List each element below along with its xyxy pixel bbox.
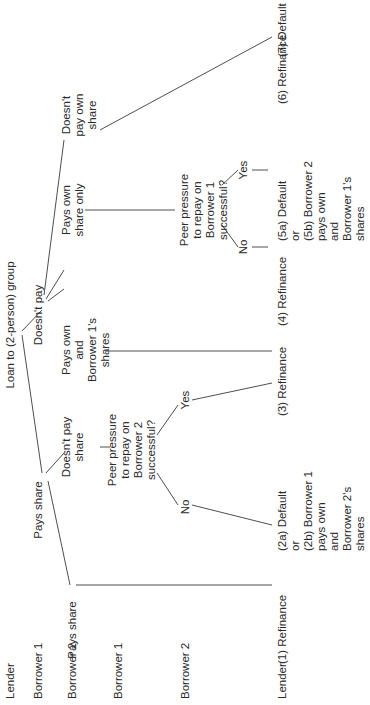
outcome-o2-line: (2b) Borrower 1: [302, 471, 314, 551]
outcome-o5-line: Borrower 1's: [341, 177, 353, 241]
row-label-line: Lender: [276, 663, 288, 699]
node-root-line: Loan to (2-person) group: [4, 261, 16, 388]
node-peer_b2-line: Borrower 2: [132, 422, 144, 478]
tree-canvas: LenderBorrower 1Borrower 2Borrower 1Borr…: [0, 0, 370, 705]
row-label-line: Borrower 1: [112, 643, 124, 699]
row-label: Lender: [4, 663, 16, 699]
tree-edge: [100, 37, 272, 130]
node-peer_b2-line: successful?: [145, 420, 157, 480]
node-peer_b1-line: to repay on: [191, 181, 203, 239]
node-b2_both-line: Pays own: [60, 325, 72, 375]
row-label: Borrower 1: [112, 643, 124, 699]
node-b2_own_only-line: Pays own: [60, 185, 72, 235]
tree-edge: [192, 383, 272, 400]
row-label-line: Borrower 2: [179, 643, 191, 699]
node-b2_not_a-line: share: [73, 433, 85, 462]
node-b2_not_a: Doesn't payshare: [60, 417, 85, 478]
outcome-o5-line: or: [289, 231, 301, 241]
node-no_b1-line: No: [237, 240, 249, 255]
outcome-o1-line: (1) Refinance: [276, 595, 288, 664]
decision-nodes: Loan to (2-person) groupPays shareDoesn'…: [4, 94, 249, 659]
node-no_b2-line: No: [179, 500, 191, 515]
node-peer_b1-line: Peer pressure: [178, 174, 190, 246]
node-yes_b2: Yes: [179, 390, 191, 409]
outcome-o5: (5a) Defaultor(5b) Borrower 2pays ownand…: [276, 161, 366, 241]
node-b2_not_a-line: Doesn't pay: [60, 417, 72, 478]
node-b1_not-line: Doesn't pay: [32, 285, 44, 346]
outcome-o5-line: pays own: [315, 192, 327, 241]
node-b1_not: Doesn't pay: [32, 285, 44, 346]
node-peer_b1: Peer pressureto repay onBorrower 1succes…: [178, 174, 229, 246]
node-b2_pays_a-line: Pays share: [66, 601, 78, 659]
node-b2_none-line: pay own: [73, 94, 85, 137]
node-peer_b1-line: Borrower 1: [204, 182, 216, 238]
outcome-o2-line: pays own: [315, 502, 327, 551]
outcome-o7-line: (7) Default: [276, 3, 288, 57]
node-b2_own_only-line: share only: [73, 183, 85, 236]
tree-edge: [22, 335, 42, 473]
tree-edge: [48, 481, 70, 585]
node-b2_both: Pays ownandBorrower 1'sshares: [60, 318, 111, 382]
outcome-o5-line: (5a) Default: [276, 180, 288, 241]
row-labels: LenderBorrower 1Borrower 2Borrower 1Borr…: [4, 643, 288, 699]
node-peer_b1-line: successful?: [217, 180, 229, 240]
row-label: Lender: [276, 663, 288, 699]
row-label: Borrower 1: [32, 643, 44, 699]
tree-edge: [48, 289, 64, 301]
outcome-o5-line: shares: [354, 206, 366, 241]
outcome-o3: (3) Refinance: [276, 347, 288, 416]
outcome-o5-line: and: [328, 222, 340, 241]
node-b2_both-line: Borrower 1's: [86, 318, 98, 382]
outcome-o1: (1) Refinance: [276, 595, 288, 664]
node-no_b1: No: [237, 240, 249, 255]
node-peer_b2-line: Peer pressure: [106, 414, 118, 486]
outcome-o2-line: (2a) Default: [276, 490, 288, 551]
node-b2_pays_a: Pays share: [66, 601, 78, 659]
node-root: Loan to (2-person) group: [4, 261, 16, 388]
row-label: Borrower 2: [179, 643, 191, 699]
outcome-labels: (1) Refinance(2a) Defaultor(2b) Borrower…: [276, 3, 366, 664]
outcome-o2-line: shares: [354, 516, 366, 551]
outcome-o2-line: or: [289, 541, 301, 551]
outcome-o2-line: and: [328, 532, 340, 551]
tree-edge: [157, 405, 178, 435]
node-b1_pays: Pays share: [32, 481, 44, 539]
node-b2_none-line: Doesn't: [60, 95, 72, 134]
outcome-o7: (7) Default: [276, 3, 288, 57]
node-b2_both-line: and: [73, 340, 85, 359]
node-b2_none-line: share: [86, 101, 98, 130]
tree-edge: [192, 505, 272, 525]
outcome-o2-line: Borrower 2's: [341, 487, 353, 551]
row-label-line: Borrower 1: [32, 643, 44, 699]
node-yes_b2-line: Yes: [179, 390, 191, 409]
outcome-o4: (4) Refinance: [276, 257, 288, 326]
row-label-line: Lender: [4, 663, 16, 699]
node-b2_own_only: Pays ownshare only: [60, 183, 85, 236]
outcome-o3-line: (3) Refinance: [276, 347, 288, 416]
node-no_b2: No: [179, 500, 191, 515]
tree-edge: [157, 473, 178, 505]
node-yes_b1-line: Yes: [237, 160, 249, 179]
node-b2_none: Doesn'tpay ownshare: [60, 94, 98, 137]
outcome-o4-line: (4) Refinance: [276, 257, 288, 326]
node-peer_b2-line: to repay on: [119, 421, 131, 479]
outcome-o2: (2a) Defaultor(2b) Borrower 1pays ownand…: [276, 471, 366, 551]
node-b1_pays-line: Pays share: [32, 481, 44, 539]
node-yes_b1: Yes: [237, 160, 249, 179]
game-tree-diagram: LenderBorrower 1Borrower 2Borrower 1Borr…: [0, 0, 370, 705]
tree-edge: [46, 270, 64, 299]
outcome-o5-line: (5b) Borrower 2: [302, 161, 314, 241]
node-b2_both-line: shares: [99, 332, 111, 367]
node-peer_b2: Peer pressureto repay onBorrower 2succes…: [106, 414, 157, 486]
